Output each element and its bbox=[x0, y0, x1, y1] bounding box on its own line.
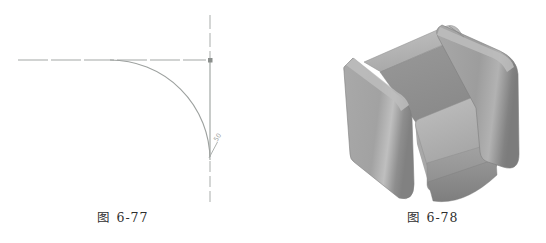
figure-caption-6-78: 图 6-78 bbox=[368, 207, 498, 226]
figure-caption-6-77: 图 6-77 bbox=[58, 207, 188, 226]
fillet-arc bbox=[110, 60, 210, 160]
radius-annotation: 50 bbox=[212, 132, 223, 143]
sofa-render-svg bbox=[330, 10, 535, 208]
scanned-figure-page: 50 图 6-77 bbox=[0, 0, 546, 243]
fillet-drawing-svg: 50 bbox=[4, 6, 280, 210]
intersection-grip-point bbox=[208, 58, 213, 63]
